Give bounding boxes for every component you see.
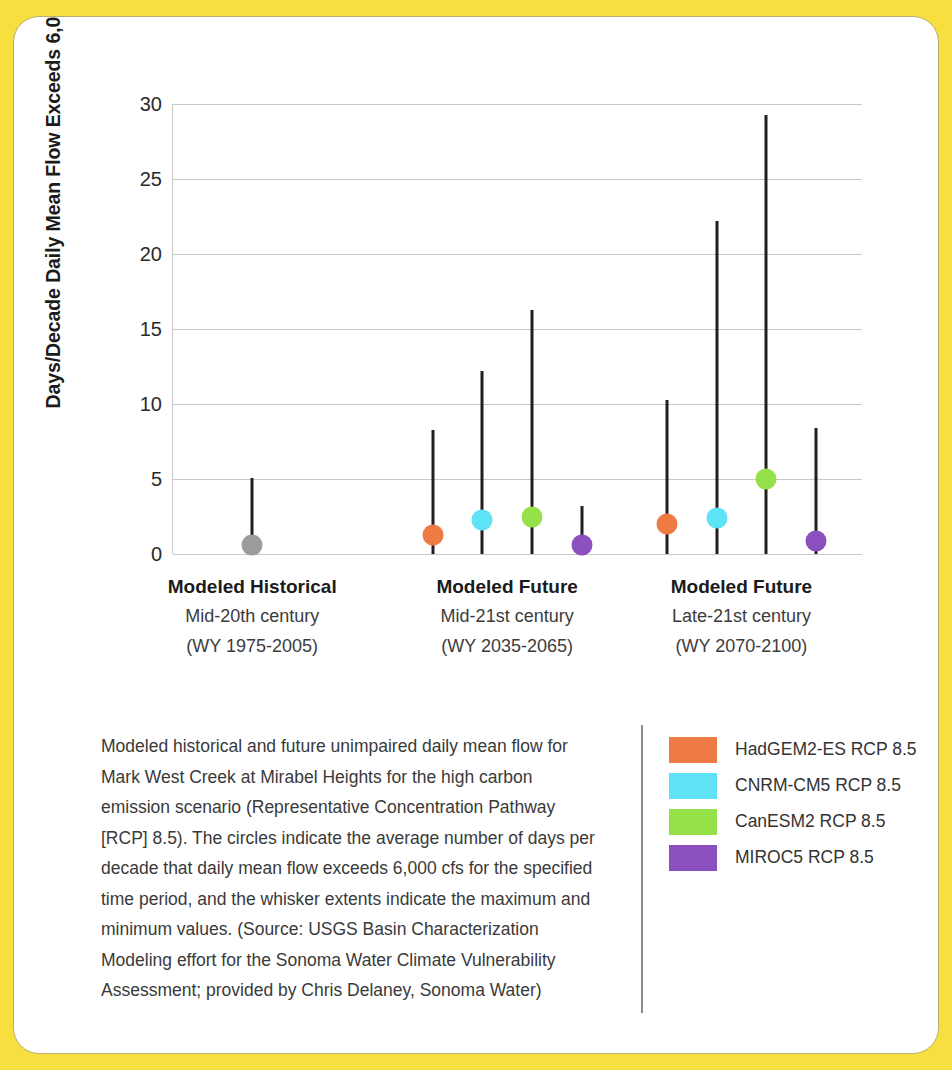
gridline: 30: [173, 104, 862, 105]
legend-label: CanESM2 RCP 8.5: [735, 811, 885, 832]
data-point-marker: [657, 514, 678, 535]
legend-swatch: [669, 737, 717, 763]
legend-label: CNRM-CM5 RCP 8.5: [735, 775, 901, 796]
figure-footer: Modeled historical and future unimpaired…: [14, 717, 939, 1047]
y-axis-tick-label: 20: [140, 243, 162, 266]
data-point-marker: [706, 508, 727, 529]
chart-region: Days/Decade Daily Mean Flow Exceeds 6,00…: [14, 17, 939, 677]
legend-swatch: [669, 773, 717, 799]
gridline: 15: [173, 329, 862, 330]
y-axis-tick-label: 15: [140, 318, 162, 341]
y-axis-tick-label: 30: [140, 93, 162, 116]
group-subtitle: Mid-20th century: [168, 601, 337, 631]
data-point-marker: [422, 524, 443, 545]
figure-card: Days/Decade Daily Mean Flow Exceeds 6,00…: [13, 16, 939, 1054]
gridline: 10: [173, 404, 862, 405]
legend: HadGEM2-ES RCP 8.5CNRM-CM5 RCP 8.5CanESM…: [669, 733, 929, 877]
data-point-marker: [805, 530, 826, 551]
legend-label: HadGEM2-ES RCP 8.5: [735, 739, 917, 760]
whisker: [715, 221, 718, 554]
x-axis-group-label: Modeled FutureLate-21st century(WY 2070-…: [671, 573, 812, 661]
y-axis-label: Days/Decade Daily Mean Flow Exceeds 6,00…: [42, 79, 65, 409]
y-axis-tick-label: 5: [151, 468, 162, 491]
legend-label: MIROC5 RCP 8.5: [735, 847, 874, 868]
plot-area: 051015202530: [173, 104, 862, 554]
group-water-years: (WY 2070-2100): [671, 631, 812, 661]
gridline: 20: [173, 254, 862, 255]
legend-item: HadGEM2-ES RCP 8.5: [669, 733, 929, 766]
y-axis-tick-label: 0: [151, 543, 162, 566]
x-axis-group-label: Modeled FutureMid-21st century(WY 2035-2…: [436, 573, 577, 661]
group-subtitle: Mid-21st century: [436, 601, 577, 631]
legend-swatch: [669, 809, 717, 835]
group-title: Modeled Future: [671, 573, 812, 601]
group-water-years: (WY 1975-2005): [168, 631, 337, 661]
x-axis-group-label: Modeled HistoricalMid-20th century(WY 19…: [168, 573, 337, 661]
gridline: 25: [173, 179, 862, 180]
data-point-marker: [242, 535, 263, 556]
legend-item: CanESM2 RCP 8.5: [669, 805, 929, 838]
legend-swatch: [669, 845, 717, 871]
legend-item: MIROC5 RCP 8.5: [669, 841, 929, 874]
y-axis-tick-label: 10: [140, 393, 162, 416]
legend-divider: [641, 725, 643, 1013]
group-water-years: (WY 2035-2065): [436, 631, 577, 661]
group-subtitle: Late-21st century: [671, 601, 812, 631]
data-point-marker: [571, 535, 592, 556]
data-point-marker: [521, 506, 542, 527]
gridline: 0: [173, 554, 862, 555]
group-title: Modeled Historical: [168, 573, 337, 601]
figure-caption: Modeled historical and future unimpaired…: [101, 731, 606, 1006]
group-title: Modeled Future: [436, 573, 577, 601]
legend-item: CNRM-CM5 RCP 8.5: [669, 769, 929, 802]
x-axis-group-labels: Modeled HistoricalMid-20th century(WY 19…: [173, 573, 862, 673]
data-point-marker: [472, 509, 493, 530]
y-axis-tick-label: 25: [140, 168, 162, 191]
data-point-marker: [756, 469, 777, 490]
